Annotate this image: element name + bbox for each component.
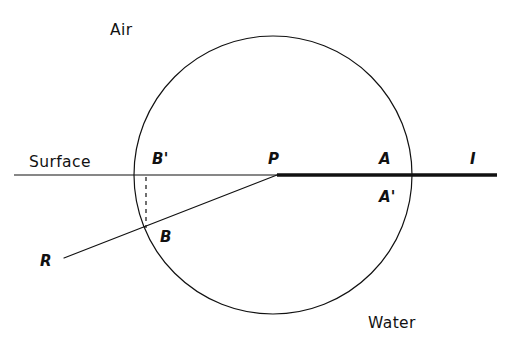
label-point-a-prime: A' bbox=[379, 190, 396, 205]
label-air: Air bbox=[110, 23, 132, 39]
label-point-p: P bbox=[268, 152, 279, 167]
label-ray-i: I bbox=[470, 152, 476, 167]
label-ray-r: R bbox=[40, 254, 52, 269]
label-point-a: A bbox=[379, 152, 391, 167]
refraction-diagram: Air Water Surface B' P A A' B R I bbox=[0, 0, 511, 355]
diagram-canvas bbox=[0, 0, 511, 355]
label-point-b-prime: B' bbox=[152, 152, 168, 167]
label-surface: Surface bbox=[29, 155, 91, 171]
label-water: Water bbox=[368, 316, 416, 332]
label-point-b: B bbox=[160, 230, 172, 245]
